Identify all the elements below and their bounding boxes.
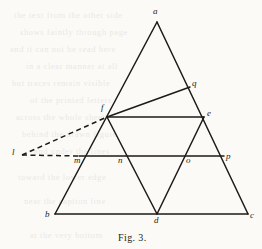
vertex-label-p: p [226,152,231,161]
edge-lf-dashed [22,117,107,155]
vertex-label-n: n [118,156,123,165]
edge-fd [107,117,157,214]
vertex-label-a: a [153,7,158,16]
vertex-label-b: b [45,210,50,219]
vertex-label-f: f [101,103,104,112]
vertex-label-m: m [74,156,81,165]
vertex-label-o: o [186,156,191,165]
edge-ed [157,117,204,214]
vertex-label-l: l [12,148,15,157]
geometric-figure [0,0,262,249]
vertex-label-e: e [207,109,211,118]
vertex-label-c: c [250,211,254,220]
figure-caption: Fig. 3. [118,232,147,243]
figure-container: the text from the other sideshows faintl… [0,0,262,249]
edge-lm-dashed [22,155,79,156]
vertex-label-d: d [154,216,159,225]
solid-line-group [55,22,248,214]
dashed-line-group [22,117,107,156]
vertex-label-q: q [192,79,197,88]
